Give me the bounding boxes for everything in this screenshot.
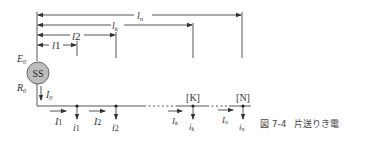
emf-label: E0 (16, 53, 26, 65)
segment-current-n: In (218, 110, 233, 125)
svg-text:l1: l1 (52, 39, 61, 51)
segment-current-2: I2 (89, 111, 105, 127)
svg-text:In: In (221, 115, 228, 125)
svg-text:ln: ln (137, 10, 144, 23)
svg-text:i2: i2 (112, 122, 119, 133)
resistance-label: R0 (16, 82, 26, 94)
figure-caption: 図 7-4片送りき電 (260, 118, 339, 129)
load-node-1: i1 (73, 104, 80, 133)
svg-text:in: in (239, 122, 245, 132)
svg-text:lk: lk (112, 20, 119, 33)
svg-text:Ik: Ik (171, 116, 178, 126)
substation-source: E0 SS R0 (16, 53, 49, 94)
node-tag-k: [K] (186, 92, 200, 103)
source-current-label: I0 (45, 89, 52, 101)
svg-text:l2: l2 (72, 30, 81, 42)
load-node-n: in (239, 104, 245, 132)
svg-text:ik: ik (189, 122, 195, 132)
segment-current-1: I1 (50, 111, 66, 127)
feeding-circuit-diagram: ln lk l2 l1 E0 SS R0 I0 [K] (0, 0, 366, 149)
svg-text:i1: i1 (73, 122, 80, 133)
svg-text:I2: I2 (93, 116, 101, 127)
substation-symbol: SS (32, 68, 43, 79)
node-tag-n: [N] (236, 92, 250, 103)
distance-ln-dimension: ln (38, 10, 242, 58)
svg-text:I1: I1 (54, 116, 62, 127)
load-node-2: i2 (112, 104, 119, 133)
load-node-k: ik (189, 104, 195, 132)
segment-current-k: Ik (168, 111, 182, 126)
